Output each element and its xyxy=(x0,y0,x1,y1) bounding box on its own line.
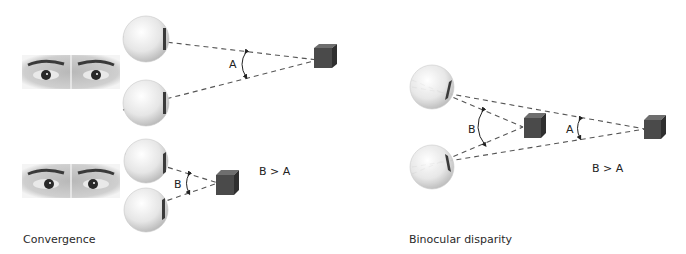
cube-near xyxy=(216,170,239,195)
geometry-layer: A B B > A xyxy=(0,0,686,254)
angle-label-b: B xyxy=(468,123,476,136)
eyeball-top xyxy=(124,139,168,183)
angle-arc-b xyxy=(187,174,190,193)
eyeball-bottom xyxy=(410,145,454,189)
angle-arc-a xyxy=(242,52,246,77)
angle-label-b: B xyxy=(174,178,182,191)
disparity-group xyxy=(410,65,666,189)
disparity-comparison: B > A xyxy=(592,162,624,175)
cube-far xyxy=(314,44,337,68)
angle-label-a: A xyxy=(229,58,237,71)
caption-convergence: Convergence xyxy=(23,233,96,246)
caption-binocular-disparity: Binocular disparity xyxy=(409,233,512,246)
eyeball-top xyxy=(410,65,454,109)
angle-label-a: A xyxy=(566,123,574,136)
cube-far xyxy=(644,115,666,139)
eyeball-bottom xyxy=(123,80,169,126)
angle-arc-a xyxy=(578,119,581,138)
cube-near xyxy=(524,113,546,138)
angle-arc-b xyxy=(478,110,485,145)
diagram-canvas: A B B > A xyxy=(0,0,686,254)
eyeball-bottom xyxy=(124,188,168,232)
convergence-far-group xyxy=(123,16,337,126)
eyeball-top xyxy=(123,16,169,62)
convergence-comparison: B > A xyxy=(259,165,291,178)
